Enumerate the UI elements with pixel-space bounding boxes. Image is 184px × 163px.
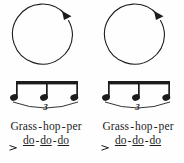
lyric-line-1: Grass-hop-per [0, 119, 92, 133]
lyric-syllable: Grass [102, 120, 129, 132]
tuplet-number: 3 [42, 102, 48, 112]
lyric-syllable: hop [43, 120, 61, 132]
lyric-syllable: hop [135, 120, 153, 132]
lyric-syllable: per [67, 120, 82, 132]
lyrics-block: Grass-hop-per do-do-do [0, 119, 92, 148]
lyric-syllable: Grass [10, 120, 37, 132]
rhythm-panel-left: 3 Grass-hop-per do-do-do [0, 0, 92, 163]
accent-icon [9, 145, 18, 151]
figure-root: 3 Grass-hop-per do-do-do [0, 0, 184, 163]
lyric-syllable: do [58, 134, 70, 146]
lyric-syllable: do [132, 134, 144, 146]
lyric-line-2: do-do-do [0, 133, 92, 148]
lyrics-block: Grass-hop-per do-do-do [92, 119, 184, 148]
triplet-notation-group: 3 [6, 76, 86, 116]
accent-icon [101, 145, 110, 151]
triplet-notation-group: 3 [98, 76, 178, 116]
lyric-line-1: Grass-hop-per [92, 119, 184, 133]
lyric-syllable: do [23, 134, 35, 146]
lyric-syllable: per [159, 120, 174, 132]
lyric-syllable: do [40, 134, 52, 146]
lyric-line-2: do-do-do [92, 133, 184, 148]
lyric-syllable: do [115, 134, 127, 146]
clockwise-circle-arrow-icon [9, 3, 83, 77]
rhythm-panel-right: 3 Grass-hop-per do-do-do [92, 0, 184, 163]
lyric-syllable: do [150, 134, 162, 146]
clockwise-circle-arrow-icon [101, 3, 175, 77]
tuplet-number: 3 [134, 102, 140, 112]
